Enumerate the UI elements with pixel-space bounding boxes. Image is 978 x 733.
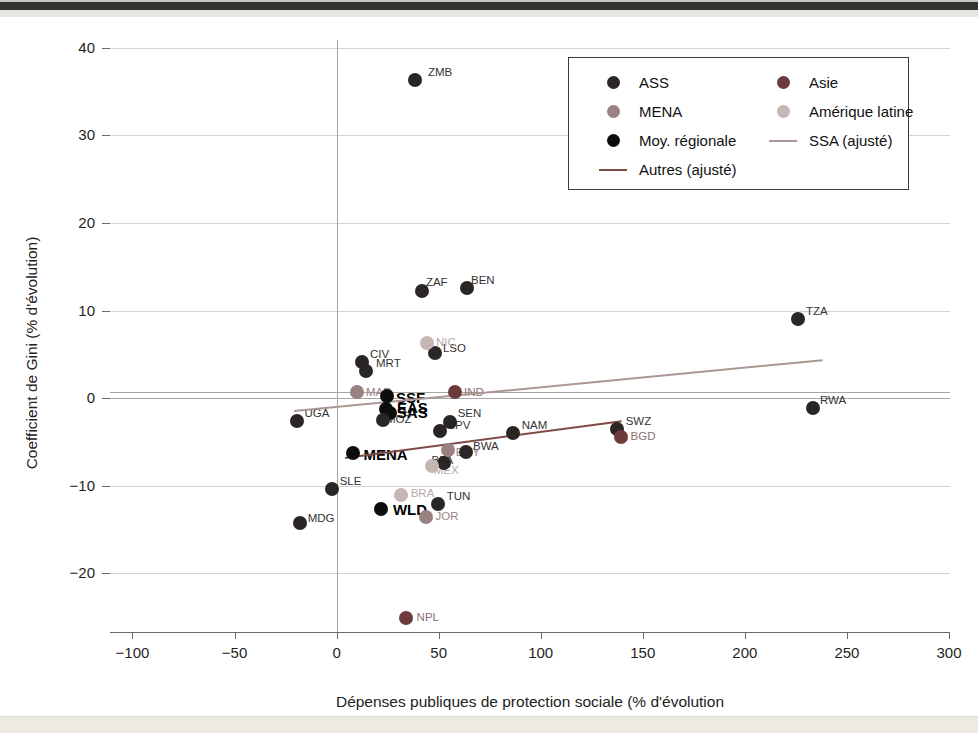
point-label-ZAF: ZAF — [426, 276, 448, 288]
x-axis-title: Dépenses publiques de protection sociale… — [110, 693, 950, 711]
y-tick-label: −20 — [55, 564, 95, 581]
x-tick-label: 250 — [817, 644, 877, 661]
gridline — [110, 223, 950, 224]
legend-dot-marker — [757, 105, 809, 118]
legend-label: ASS — [639, 74, 669, 91]
y-tick-label: 40 — [55, 39, 95, 56]
y-tick-label: 30 — [55, 126, 95, 143]
data-point-NIC — [420, 336, 434, 350]
x-tick — [439, 632, 440, 639]
data-point-UGA — [290, 414, 304, 428]
x-tick — [235, 632, 236, 639]
data-point-MOZ — [376, 413, 390, 427]
legend-item-7: Autres (ajusté) — [587, 155, 757, 184]
legend-label: MENA — [639, 103, 682, 120]
dot-icon — [777, 76, 790, 89]
legend-item-3: MENA — [587, 97, 757, 126]
x-tick — [132, 632, 133, 639]
point-label-SWZ: SWZ — [626, 415, 652, 427]
x-tick-label: 150 — [613, 644, 673, 661]
y-tick — [102, 311, 110, 312]
legend-label: SSA (ajusté) — [809, 132, 892, 149]
data-point-BFA — [437, 456, 451, 470]
legend-item-5: Moy. régionale — [587, 126, 757, 155]
data-point-MRT — [359, 364, 373, 378]
point-label-BGD: BGD — [631, 430, 656, 442]
data-point-MENA — [346, 446, 360, 460]
point-label-NAM: NAM — [522, 419, 548, 431]
data-point-IND — [448, 385, 462, 399]
point-label-MRT: MRT — [376, 357, 401, 369]
window-top-strip — [0, 2, 978, 10]
y-tick-label: 20 — [55, 214, 95, 231]
data-point-TUN — [431, 497, 445, 511]
x-tick — [949, 632, 950, 639]
x-axis-line — [110, 632, 950, 633]
data-point-MEX — [425, 459, 439, 473]
dot-icon — [607, 134, 620, 147]
window-top-strip-shadow — [0, 10, 978, 17]
y-tick — [102, 48, 110, 49]
legend-dot-marker — [757, 76, 809, 89]
x-tick — [541, 632, 542, 639]
x-tick — [847, 632, 848, 639]
point-label-ZMB: ZMB — [428, 66, 452, 78]
point-label-SEN: SEN — [458, 407, 482, 419]
x-tick-label: −50 — [205, 644, 265, 661]
dot-icon — [607, 105, 620, 118]
data-point-ZMB — [408, 73, 422, 87]
legend-dot-marker — [587, 76, 639, 89]
legend-grid: ASSAsieMENAAmérique latineMoy. régionale… — [587, 68, 902, 184]
legend-item-6: SSA (ajusté) — [757, 126, 913, 155]
data-point-BGD — [614, 430, 628, 444]
data-point-TZA — [791, 312, 805, 326]
data-point-BEN — [460, 281, 474, 295]
data-point-BRA — [394, 488, 408, 502]
x-tick-label: 100 — [511, 644, 571, 661]
x-tick — [643, 632, 644, 639]
x-tick-label: 50 — [409, 644, 469, 661]
line-icon — [599, 169, 627, 171]
data-point-ZAF — [415, 284, 429, 298]
point-label-SLE: SLE — [340, 475, 362, 487]
legend-dot-marker — [587, 105, 639, 118]
y-tick — [102, 223, 110, 224]
data-point-SLE — [325, 482, 339, 496]
data-point-JOR — [419, 510, 433, 524]
vertical-zero-line — [337, 40, 338, 632]
data-point-RWA — [806, 401, 820, 415]
legend-line-marker — [587, 169, 639, 171]
x-tick — [745, 632, 746, 639]
x-tick-label: −100 — [102, 644, 162, 661]
data-point-MAR — [350, 385, 364, 399]
data-point-MDG — [293, 516, 307, 530]
point-label-BRA: BRA — [411, 487, 435, 499]
point-label-TZA: TZA — [806, 305, 828, 317]
y-tick — [102, 573, 110, 574]
y-tick-label: 10 — [55, 302, 95, 319]
dot-icon — [607, 76, 620, 89]
x-tick-label: 200 — [715, 644, 775, 661]
legend-item-4: Amérique latine — [757, 97, 913, 126]
y-tick — [102, 486, 110, 487]
legend-line-marker — [757, 140, 809, 142]
gridline — [110, 573, 950, 574]
x-tick — [337, 632, 338, 639]
line-icon — [769, 140, 797, 142]
page-bottom-band — [0, 716, 978, 733]
point-label-TUN: TUN — [447, 490, 471, 502]
legend-label: Moy. régionale — [639, 132, 736, 149]
data-point-NPL — [399, 611, 413, 625]
legend-box: ASSAsieMENAAmérique latineMoy. régionale… — [568, 57, 909, 190]
screenshot-root: 403020100−10−20−100−50050100150200250300… — [0, 0, 978, 733]
data-point-WLD — [374, 502, 388, 516]
point-label-BEN: BEN — [471, 274, 495, 286]
y-tick — [102, 135, 110, 136]
legend-label: Amérique latine — [809, 103, 913, 120]
data-point-BWA — [459, 445, 473, 459]
y-axis-title: Coefficient de Gini (% d'évolution) — [23, 237, 41, 470]
data-point-EGY — [441, 443, 455, 457]
y-tick-label: 0 — [55, 389, 95, 406]
point-label-MDG: MDG — [308, 512, 335, 524]
x-tick-label: 300 — [919, 644, 978, 661]
